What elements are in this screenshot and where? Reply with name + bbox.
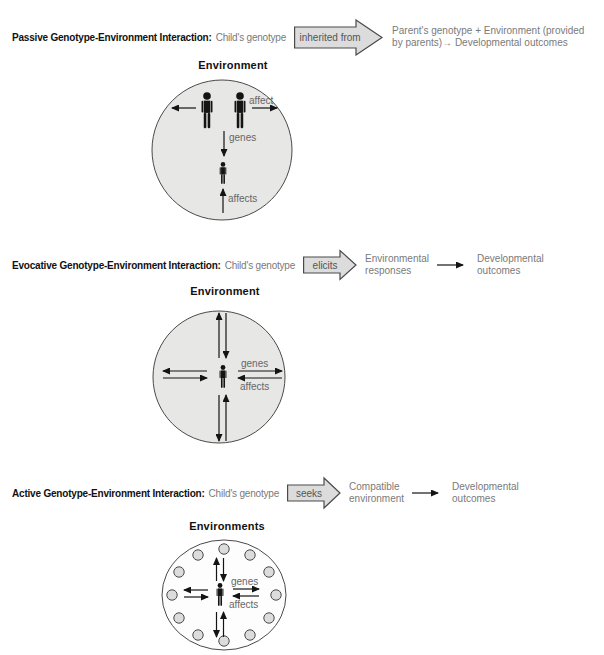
environments-label-active: Environments xyxy=(189,520,265,532)
environment-label-evocative: Environment xyxy=(190,285,259,297)
evocative-heading: Evocative Genotype-Environment Interacti… xyxy=(12,260,295,271)
evocative-mid-line1: Environmental xyxy=(365,253,429,266)
evocative-heading-title: Evocative Genotype-Environment Interacti… xyxy=(12,260,221,271)
active-mid-line2: environment xyxy=(349,493,404,506)
passive-heading: Passive Genotype-Environment Interaction… xyxy=(12,32,286,43)
evocative-mid-line2: responses xyxy=(365,265,429,278)
seeks-label: seeks xyxy=(287,476,331,510)
active-outcome-line2: outcomes xyxy=(452,493,519,506)
passive-heading-title: Passive Genotype-Environment Interaction… xyxy=(12,32,212,43)
active-heading: Active Genotype-Environment Interaction:… xyxy=(12,488,279,499)
passive-outcome-line2: by parents)→ Developmental outcomes xyxy=(392,37,597,50)
genes-label: genes xyxy=(241,358,268,369)
environment-label-passive: Environment xyxy=(198,59,267,71)
active-mid-text: Compatible environment xyxy=(349,481,404,506)
evocative-header-row: Evocative Genotype-Environment Interacti… xyxy=(12,247,544,283)
passive-header-row: Passive Genotype-Environment Interaction… xyxy=(12,18,597,56)
active-mid-line1: Compatible xyxy=(349,481,404,494)
inherited-from-label: inherited from xyxy=(294,19,366,56)
evocative-heading-subject: Child's genotype xyxy=(225,260,295,271)
affect-label: affect xyxy=(249,95,273,106)
active-heading-title: Active Genotype-Environment Interaction: xyxy=(12,488,205,499)
genes-label: genes xyxy=(231,576,258,587)
passive-outcome-text: Parent's genotype + Environment (provide… xyxy=(392,25,597,50)
affects-label: affects xyxy=(229,599,258,610)
genotype-environment-figure: Passive Genotype-Environment Interaction… xyxy=(0,0,604,655)
evocative-outcome-text: Developmental outcomes xyxy=(477,253,544,278)
active-outcome-line1: Developmental xyxy=(452,481,519,494)
evocative-mid-text: Environmental responses xyxy=(365,253,429,278)
flow-arrow-icon xyxy=(412,489,444,497)
active-header-row: Active Genotype-Environment Interaction:… xyxy=(12,474,519,512)
passive-heading-subject: Child's genotype xyxy=(216,32,286,43)
active-environments-diagram xyxy=(162,540,286,650)
elicits-block-arrow: elicits xyxy=(303,249,357,281)
seeks-block-arrow: seeks xyxy=(287,476,341,510)
active-outcome-text: Developmental outcomes xyxy=(452,481,519,506)
affects-label: affects xyxy=(240,381,269,392)
genes-label: genes xyxy=(229,132,256,143)
active-heading-subject: Child's genotype xyxy=(209,488,279,499)
inherited-from-block-arrow: inherited from xyxy=(294,19,384,56)
evocative-outcome-line2: outcomes xyxy=(477,265,544,278)
passive-outcome-line1: Parent's genotype + Environment (provide… xyxy=(392,25,597,38)
elicits-label: elicits xyxy=(303,249,347,281)
diagram-canvas xyxy=(0,0,604,655)
flow-arrow-icon xyxy=(437,261,469,269)
evocative-environment-diagram xyxy=(153,311,285,443)
affects-label: affects xyxy=(228,193,257,204)
evocative-outcome-line1: Developmental xyxy=(477,253,544,266)
